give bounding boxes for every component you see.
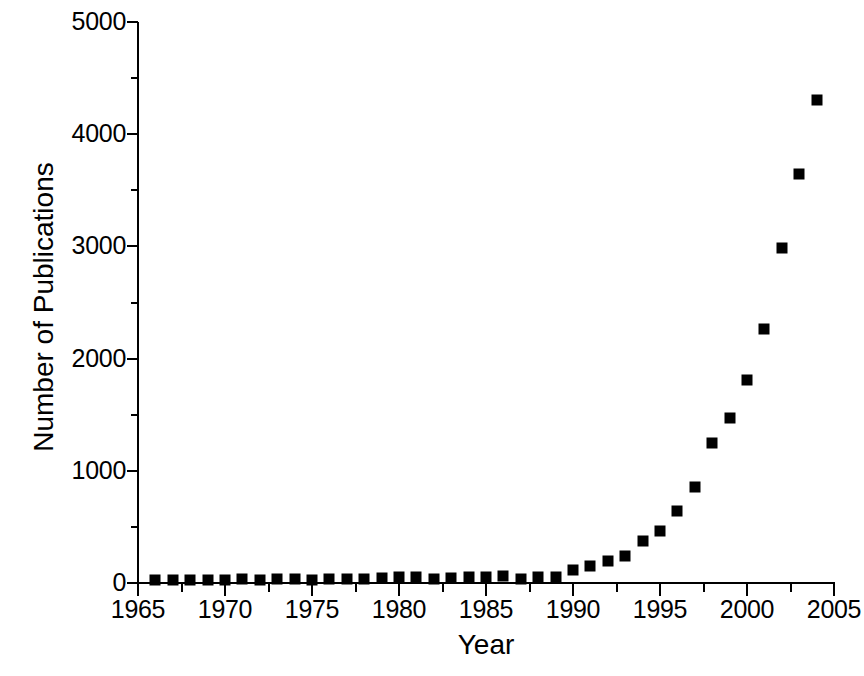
y-axis-title: Number of Publications bbox=[29, 77, 59, 537]
data-point-marker bbox=[202, 574, 213, 585]
x-axis-minor-tick bbox=[616, 584, 618, 592]
y-axis-tick-label: 3000 bbox=[72, 233, 126, 258]
data-point-marker bbox=[655, 526, 666, 537]
data-point-marker bbox=[620, 551, 631, 562]
data-point-marker bbox=[272, 574, 283, 585]
data-point-marker bbox=[341, 573, 352, 584]
y-axis-major-tick bbox=[127, 245, 138, 247]
data-point-marker bbox=[167, 574, 178, 585]
data-point-marker bbox=[446, 572, 457, 583]
y-axis-major-tick bbox=[127, 358, 138, 360]
data-point-marker bbox=[759, 323, 770, 334]
data-point-marker bbox=[550, 572, 561, 583]
data-point-marker bbox=[742, 375, 753, 386]
x-axis-minor-tick bbox=[442, 584, 444, 592]
data-point-marker bbox=[254, 574, 265, 585]
x-axis-tick-label: 1970 bbox=[198, 597, 252, 622]
x-axis-tick-label: 1990 bbox=[546, 597, 600, 622]
x-axis-minor-tick bbox=[703, 584, 705, 592]
data-point-marker bbox=[794, 169, 805, 180]
data-point-marker bbox=[637, 536, 648, 547]
y-axis-minor-tick bbox=[131, 414, 138, 416]
publications-by-year-chart: 010002000300040005000 196519701975198019… bbox=[0, 0, 864, 676]
data-point-marker bbox=[811, 94, 822, 105]
data-point-marker bbox=[724, 413, 735, 424]
y-axis-minor-tick bbox=[131, 189, 138, 191]
y-axis-tick-label: 4000 bbox=[72, 121, 126, 146]
x-axis-tick-label: 1985 bbox=[459, 597, 513, 622]
y-axis-minor-tick bbox=[131, 526, 138, 528]
data-point-marker bbox=[220, 574, 231, 585]
x-axis-title: Year bbox=[137, 630, 835, 660]
y-axis-tick-label: 2000 bbox=[72, 346, 126, 371]
data-point-marker bbox=[289, 574, 300, 585]
data-point-marker bbox=[689, 481, 700, 492]
data-point-marker bbox=[359, 573, 370, 584]
x-axis-minor-tick bbox=[181, 584, 183, 592]
data-point-marker bbox=[707, 437, 718, 448]
x-axis-tick-label: 1975 bbox=[285, 597, 339, 622]
y-axis-major-tick bbox=[127, 470, 138, 472]
data-point-marker bbox=[585, 561, 596, 572]
x-axis-minor-tick bbox=[790, 584, 792, 592]
x-axis-tick-label: 1980 bbox=[372, 597, 426, 622]
data-point-marker bbox=[463, 572, 474, 583]
x-axis-tick-label: 2000 bbox=[720, 597, 774, 622]
x-axis-tick-label: 1995 bbox=[633, 597, 687, 622]
data-point-marker bbox=[776, 242, 787, 253]
data-point-marker bbox=[324, 573, 335, 584]
x-axis-tick-label: 1965 bbox=[111, 597, 165, 622]
y-axis-minor-tick bbox=[131, 77, 138, 79]
data-point-marker bbox=[672, 505, 683, 516]
data-point-marker bbox=[411, 572, 422, 583]
data-point-marker bbox=[568, 564, 579, 575]
y-axis-tick-label: 0 bbox=[112, 570, 126, 595]
y-axis-major-tick bbox=[127, 21, 138, 23]
x-axis-minor-tick bbox=[355, 584, 357, 592]
data-point-marker bbox=[307, 574, 318, 585]
data-point-marker bbox=[498, 571, 509, 582]
plot-area bbox=[138, 22, 834, 583]
y-axis-minor-tick bbox=[131, 302, 138, 304]
data-point-marker bbox=[150, 574, 161, 585]
x-axis-minor-tick bbox=[529, 584, 531, 592]
data-point-marker bbox=[602, 556, 613, 567]
y-axis-major-tick bbox=[127, 133, 138, 135]
y-axis-tick-label: 1000 bbox=[72, 458, 126, 483]
data-point-marker bbox=[515, 573, 526, 584]
data-point-marker bbox=[394, 571, 405, 582]
x-axis-minor-tick bbox=[268, 584, 270, 592]
data-point-marker bbox=[481, 572, 492, 583]
data-point-marker bbox=[237, 574, 248, 585]
data-point-marker bbox=[376, 573, 387, 584]
data-point-marker bbox=[428, 573, 439, 584]
y-axis-tick-label: 5000 bbox=[72, 9, 126, 34]
x-axis-tick-label: 2005 bbox=[807, 597, 861, 622]
data-point-marker bbox=[185, 575, 196, 586]
data-point-marker bbox=[533, 572, 544, 583]
